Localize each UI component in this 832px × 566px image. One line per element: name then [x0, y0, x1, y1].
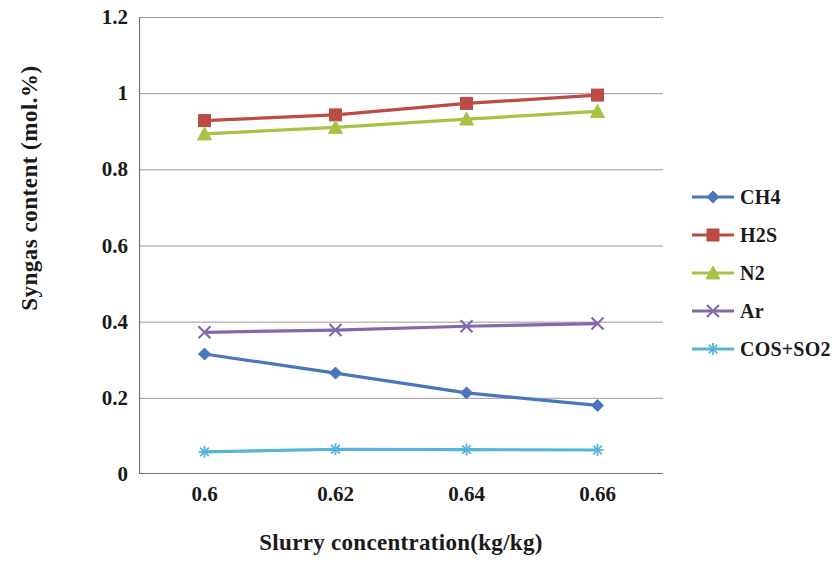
data-point-marker — [199, 115, 211, 127]
y-axis-tick-label: 1.2 — [18, 5, 128, 30]
legend-item-label: CH4 — [740, 186, 781, 209]
square-marker-icon — [199, 115, 211, 127]
legend-marker-icon — [692, 226, 734, 244]
data-point-marker — [330, 109, 342, 121]
y-axis-tick-label: 0.8 — [18, 157, 128, 182]
series-line — [205, 95, 598, 121]
legend-item-label: Ar — [740, 300, 764, 323]
legend-marker-icon — [692, 302, 734, 320]
legend-key-canvas — [692, 264, 734, 282]
plot-area — [139, 17, 663, 474]
square-marker-icon — [592, 89, 604, 101]
data-point-marker — [330, 443, 342, 455]
x-axis-tick-label: 0.62 — [276, 482, 396, 507]
y-axis-tick-label: 0.2 — [18, 386, 128, 411]
data-point-marker — [461, 97, 473, 109]
square-marker-icon — [707, 229, 719, 241]
series-line — [205, 324, 598, 333]
data-point-marker — [461, 387, 473, 399]
legend-key-canvas — [692, 188, 734, 206]
data-point-marker — [330, 367, 342, 379]
legend-key-canvas — [692, 340, 734, 358]
legend-marker-icon — [692, 340, 734, 358]
diamond-marker-icon — [461, 387, 473, 399]
chart-legend: CH4H2SN2ArCOS+SO2 — [692, 178, 832, 368]
series-cos-so2 — [199, 443, 604, 458]
series-h2s — [199, 89, 604, 127]
legend-item-n2[interactable]: N2 — [692, 254, 832, 292]
diamond-marker-icon — [199, 348, 211, 360]
legend-key-canvas — [692, 226, 734, 244]
data-point-marker — [707, 191, 719, 203]
x-axis-tick-label: 0.64 — [407, 482, 527, 507]
data-point-marker — [592, 89, 604, 101]
legend-item-label: COS+SO2 — [740, 338, 831, 361]
series-ar — [199, 318, 604, 339]
square-marker-icon — [330, 109, 342, 121]
legend-item-label: H2S — [740, 224, 777, 247]
data-point-marker — [592, 444, 604, 456]
data-point-marker — [592, 399, 604, 411]
series-line — [205, 354, 598, 405]
syngas-content-line-chart: Syngas content (mol.%) 00.20.40.60.811.2… — [0, 0, 832, 566]
diamond-marker-icon — [707, 191, 719, 203]
data-point-marker — [461, 444, 473, 456]
legend-key-canvas — [692, 302, 734, 320]
diamond-marker-icon — [592, 399, 604, 411]
y-axis-tick-label: 0.4 — [18, 310, 128, 335]
series-ch4 — [199, 348, 604, 411]
data-point-marker — [707, 229, 719, 241]
diamond-marker-icon — [330, 367, 342, 379]
legend-item-h2s[interactable]: H2S — [692, 216, 832, 254]
x-axis-title: Slurry concentration(kg/kg) — [139, 530, 663, 556]
x-axis-tick-label: 0.66 — [538, 482, 658, 507]
data-point-marker — [199, 348, 211, 360]
y-axis-tick-label: 0 — [18, 462, 128, 487]
square-marker-icon — [461, 97, 473, 109]
x-axis-tick-label: 0.6 — [145, 482, 265, 507]
legend-item-ch4[interactable]: CH4 — [692, 178, 832, 216]
data-point-marker — [707, 343, 719, 355]
series-line — [205, 111, 598, 133]
legend-item-cos-so2[interactable]: COS+SO2 — [692, 330, 832, 368]
legend-marker-icon — [692, 188, 734, 206]
legend-item-label: N2 — [740, 262, 765, 285]
plot-canvas — [139, 17, 663, 474]
y-axis-tick-label: 0.6 — [18, 234, 128, 259]
legend-marker-icon — [692, 264, 734, 282]
y-axis-tick-label: 1 — [18, 81, 128, 106]
series-line — [205, 449, 598, 452]
legend-item-ar[interactable]: Ar — [692, 292, 832, 330]
data-point-marker — [199, 446, 211, 458]
